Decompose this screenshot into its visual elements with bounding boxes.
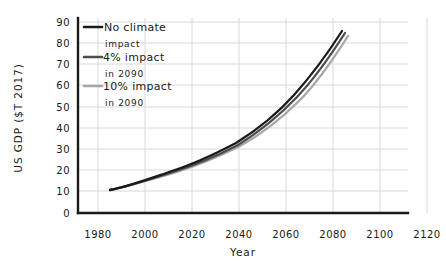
y-tick-label: 50 (56, 102, 70, 113)
y-tick-label: 90 (56, 17, 70, 28)
legend-label-10pct-impact-line1: 10% impact (103, 80, 172, 93)
gdp-climate-line-chart: 90 80 70 60 50 40 30 20 10 0 1980 2000 2… (0, 0, 446, 274)
y-tick-label: 10 (56, 186, 70, 197)
x-tick-label: 2040 (225, 229, 252, 240)
x-tick-label: 2120 (413, 229, 440, 240)
legend-label-10pct-impact-line2: in 2090 (105, 98, 144, 108)
x-tick-label: 1980 (84, 229, 111, 240)
chart-canvas: 90 80 70 60 50 40 30 20 10 0 1980 2000 2… (0, 0, 446, 274)
legend-label-4pct-impact-line1: 4% impact (103, 51, 165, 64)
y-tick-label: 80 (56, 38, 70, 49)
x-tick-label: 2100 (366, 229, 393, 240)
legend-label-4pct-impact-line2: in 2090 (105, 69, 144, 79)
y-axis-title: US GDP ($T 2017) (12, 63, 24, 172)
x-tick-label: 2080 (319, 229, 346, 240)
x-tick-label: 2060 (272, 229, 299, 240)
legend-label-no-climate-impact-line1: No climate (104, 21, 166, 34)
y-tick-label: 0 (63, 208, 70, 219)
x-axis-title: Year (229, 246, 256, 258)
y-tick-label: 30 (56, 144, 70, 155)
legend-label-no-climate-impact-line2: impact (105, 39, 140, 49)
y-tick-label: 40 (56, 123, 70, 134)
x-tick-label: 2000 (131, 229, 158, 240)
y-tick-label: 20 (56, 165, 70, 176)
y-tick-label: 60 (56, 80, 70, 91)
y-tick-label: 70 (56, 59, 70, 70)
x-tick-label: 2020 (178, 229, 205, 240)
